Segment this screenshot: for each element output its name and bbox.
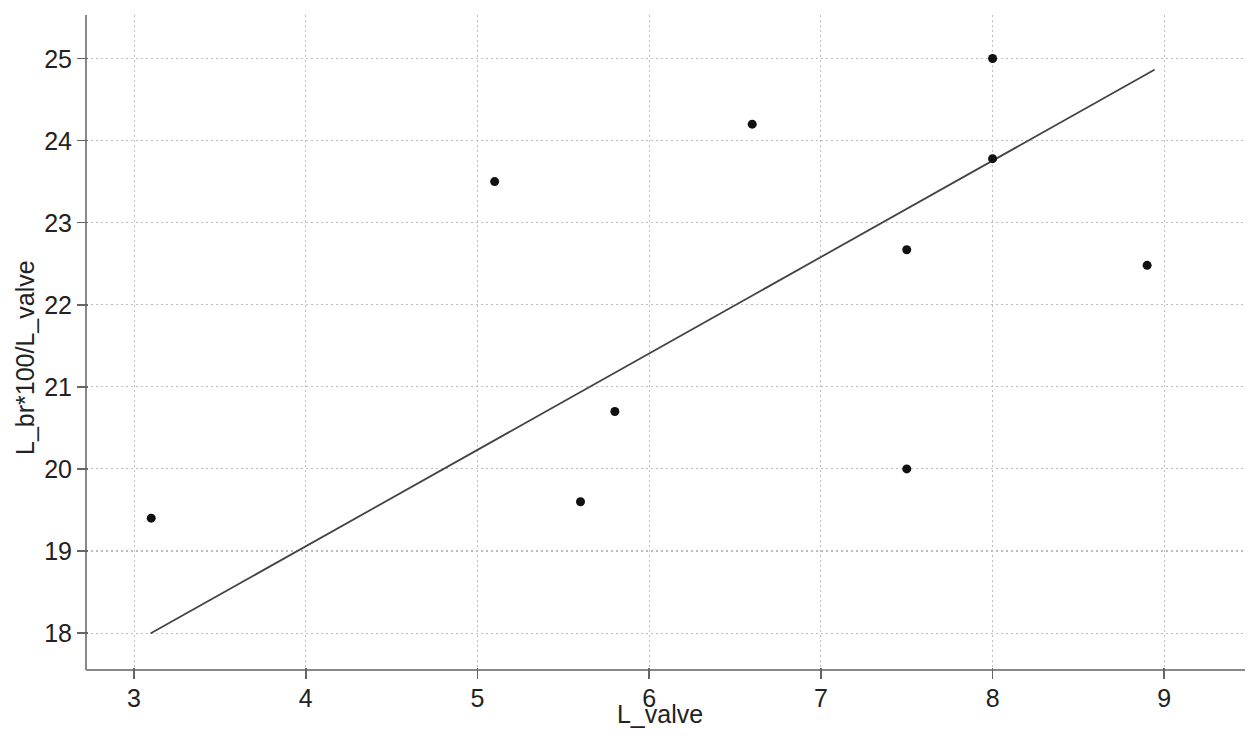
data-point bbox=[748, 120, 757, 129]
y-tick-label: 20 bbox=[18, 454, 72, 483]
data-point bbox=[147, 514, 156, 523]
x-axis-title: L_valve bbox=[617, 700, 703, 729]
data-point bbox=[902, 464, 911, 473]
y-tick-label: 18 bbox=[18, 619, 72, 648]
data-point bbox=[490, 177, 499, 186]
y-tick-label: 25 bbox=[18, 44, 72, 73]
x-tick-label: 4 bbox=[299, 684, 313, 713]
y-tick-label: 19 bbox=[18, 536, 72, 565]
data-point bbox=[1143, 261, 1152, 270]
plot-canvas bbox=[0, 0, 1260, 744]
x-tick-label: 3 bbox=[127, 684, 141, 713]
data-points-group bbox=[147, 54, 1152, 523]
y-tick-label: 24 bbox=[18, 126, 72, 155]
x-tick-label: 5 bbox=[471, 684, 485, 713]
data-point bbox=[610, 407, 619, 416]
y-axis-title: L_br*100/L_valve bbox=[11, 260, 40, 455]
x-tick-label: 9 bbox=[1157, 684, 1171, 713]
data-point bbox=[988, 154, 997, 163]
trend-line bbox=[151, 70, 1154, 633]
y-tick-label: 23 bbox=[18, 208, 72, 237]
data-point bbox=[988, 54, 997, 63]
data-point bbox=[902, 245, 911, 254]
regression-line bbox=[151, 70, 1154, 633]
x-tick-label: 8 bbox=[986, 684, 1000, 713]
data-point bbox=[576, 497, 585, 506]
x-tick-label: 7 bbox=[814, 684, 828, 713]
scatter-plot-figure: 1819202122232425 3456789 L_br*100/L_valv… bbox=[0, 0, 1260, 744]
